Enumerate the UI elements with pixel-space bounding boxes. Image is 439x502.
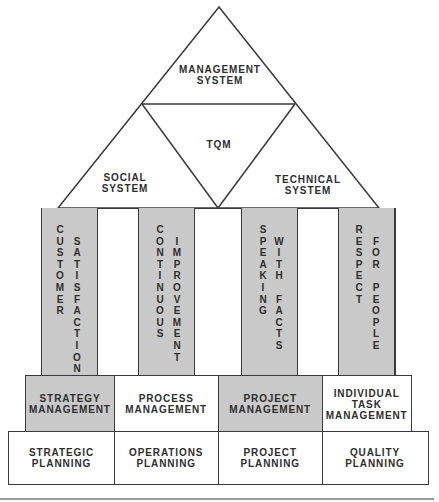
pillar-letter: I	[257, 282, 269, 294]
pillar-letter: O	[71, 352, 83, 364]
pillar-letter: E	[370, 294, 382, 306]
pillar-letter: S	[257, 224, 269, 236]
pillar-letter: I	[273, 247, 285, 259]
pillar-letter: T	[154, 259, 166, 271]
pillar-col-2: IMPROVEMENT	[171, 236, 183, 364]
pillar-letter: M	[171, 317, 183, 329]
management-cell-process: PROCESS MANAGEMENT	[114, 375, 220, 433]
pillar-letter: O	[370, 247, 382, 259]
roof-top-label: MANAGEMENT SYSTEM	[170, 65, 270, 86]
pillar-letter: E	[353, 236, 365, 248]
pillar-letter: F	[273, 294, 285, 306]
roof-center-label: TQM	[190, 140, 248, 151]
management-cell-individual-task: INDIVIDUAL TASK MANAGEMENT	[322, 375, 413, 433]
pillar-letter: E	[171, 305, 183, 317]
pillar-col-1: CUSTOMER	[54, 224, 66, 317]
pillar-letter: P	[353, 259, 365, 271]
pillar-letter: N	[257, 294, 269, 306]
pillar-letter: C	[71, 317, 83, 329]
pillar-letter: F	[71, 294, 83, 306]
planning-cell-project: PROJECT PLANNING	[218, 431, 324, 485]
pillar-letter: K	[257, 270, 269, 282]
pillar-letter: V	[171, 294, 183, 306]
pillar-letter: U	[154, 317, 166, 329]
management-row: STRATEGY MANAGEMENT PROCESS MANAGEMENT P…	[25, 375, 412, 433]
pillar-letter: O	[54, 270, 66, 282]
pillar-letter: M	[171, 247, 183, 259]
pillar-letter: W	[273, 236, 285, 248]
pillar-letter: I	[71, 340, 83, 352]
pillar-letter: O	[154, 305, 166, 317]
pillar-letter: T	[353, 294, 365, 306]
pillar-letter: C	[154, 224, 166, 236]
pillar-col-2: FOR PEOPLE	[370, 236, 382, 352]
pillar-letter: T	[273, 328, 285, 340]
pillar-letter: R	[54, 305, 66, 317]
pillar-letter: C	[353, 282, 365, 294]
pillar-col-1: CONTINUOUS	[154, 224, 166, 340]
pillar-letter: E	[171, 328, 183, 340]
bottom-rule	[0, 498, 434, 500]
pillar-letter: E	[370, 340, 382, 352]
pillar-letter: P	[370, 317, 382, 329]
pillar-respect-for-people: RESPECT FOR PEOPLE	[338, 208, 395, 376]
pillar-letter: A	[257, 259, 269, 271]
pillar-customer-satisfaction: CUSTOMER SATISFACTION	[41, 208, 98, 376]
pillar-letter: A	[71, 305, 83, 317]
pillar-letter: U	[54, 236, 66, 248]
pillar-continuous-improvement: CONTINUOUS IMPROVEMENT	[138, 208, 195, 376]
pillar-letter: C	[273, 317, 285, 329]
pillar-col-2: SATISFACTION	[71, 236, 83, 375]
pillar-letter: P	[171, 259, 183, 271]
pillar-letter: G	[257, 305, 269, 317]
pillar-col-1: RESPECT	[353, 224, 365, 305]
pillar-letter: S	[71, 282, 83, 294]
pillar-letter: O	[171, 282, 183, 294]
pillar-letter: L	[370, 328, 382, 340]
planning-cell-operations: OPERATIONS PLANNING	[114, 431, 220, 485]
pillar-letter: N	[154, 247, 166, 259]
pillar-letter: I	[154, 270, 166, 282]
pillar-letter: S	[154, 328, 166, 340]
pillar-letter: T	[171, 352, 183, 364]
pillar-letter: T	[71, 328, 83, 340]
pillar-letter: O	[154, 236, 166, 248]
pillar-letter: E	[257, 247, 269, 259]
pillar-letter: I	[71, 270, 83, 282]
pillar-letter: U	[154, 294, 166, 306]
pillar-letter: P	[370, 282, 382, 294]
pillar-letter: E	[54, 294, 66, 306]
pillar-letter: R	[370, 259, 382, 271]
pillar-letter: M	[54, 282, 66, 294]
pillar-letter: S	[54, 247, 66, 259]
pillar-letter: T	[71, 259, 83, 271]
pillar-letter: A	[273, 305, 285, 317]
pillar-letter	[273, 282, 285, 294]
pillar-letter: R	[353, 224, 365, 236]
pillar-letter: T	[54, 259, 66, 271]
pillar-letter: E	[353, 270, 365, 282]
planning-cell-quality: QUALITY PLANNING	[322, 431, 429, 485]
roof-right-label: TECHNICAL SYSTEM	[263, 175, 353, 196]
pillar-letter: N	[71, 363, 83, 375]
pillar-letter: O	[370, 305, 382, 317]
management-cell-strategy: STRATEGY MANAGEMENT	[25, 375, 115, 433]
pillar-letter: S	[353, 247, 365, 259]
roof-triangle	[0, 0, 439, 212]
pillar-letter: S	[71, 236, 83, 248]
management-cell-project: PROJECT MANAGEMENT	[218, 375, 324, 433]
pillar-letter	[370, 270, 382, 282]
pillar-letter: I	[171, 236, 183, 248]
pillar-letter: A	[71, 247, 83, 259]
pillar-letter: N	[154, 282, 166, 294]
pillar-letter: H	[273, 270, 285, 282]
pillar-letter: N	[171, 340, 183, 352]
pillar-speaking-with-facts: SPEAKING WITH FACTS	[241, 208, 298, 376]
pillar-col-2: WITH FACTS	[273, 236, 285, 352]
pillar-letter: P	[257, 236, 269, 248]
pillar-letter: F	[370, 236, 382, 248]
roof-left-label: SOCIAL SYSTEM	[85, 173, 165, 194]
planning-row: STRATEGIC PLANNING OPERATIONS PLANNING P…	[8, 431, 429, 485]
pillar-letter: C	[54, 224, 66, 236]
pillar-letter: T	[273, 259, 285, 271]
